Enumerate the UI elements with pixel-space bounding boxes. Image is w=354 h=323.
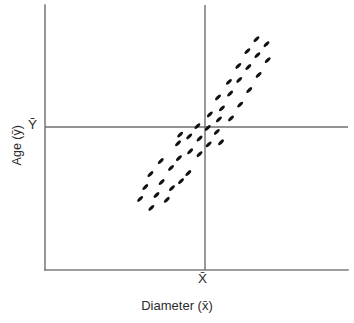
data-point xyxy=(245,63,252,70)
data-point xyxy=(163,196,170,203)
data-point xyxy=(153,191,160,198)
data-point xyxy=(157,157,164,164)
data-point xyxy=(148,204,155,211)
data-point xyxy=(176,131,183,138)
mean-lines-group xyxy=(45,5,348,270)
x-axis-label: Diameter (x̄) xyxy=(0,299,354,312)
data-point xyxy=(263,40,270,47)
data-point xyxy=(264,56,271,63)
y-axis-label: Age (ȳ) xyxy=(11,105,24,185)
data-point xyxy=(213,128,220,135)
data-point xyxy=(185,133,192,140)
data-point xyxy=(158,178,165,185)
data-point xyxy=(196,135,203,142)
data-point xyxy=(236,101,243,108)
data-point xyxy=(218,105,225,112)
data-point xyxy=(225,78,232,85)
data-point xyxy=(168,184,175,191)
data-point xyxy=(205,141,212,148)
data-point xyxy=(136,195,143,202)
data-point xyxy=(227,115,234,122)
y-mean-tick-label: Ȳ xyxy=(28,118,37,132)
data-point xyxy=(226,90,233,97)
data-point xyxy=(235,62,242,69)
data-point xyxy=(217,139,224,146)
data-point xyxy=(142,183,149,190)
data-point xyxy=(196,150,203,157)
data-point xyxy=(194,122,201,129)
data-point xyxy=(174,140,181,147)
data-point xyxy=(245,86,252,93)
data-point xyxy=(235,76,242,83)
data-point xyxy=(147,170,154,177)
x-mean-tick-label: X̄ xyxy=(198,272,207,286)
plot-canvas xyxy=(0,0,354,323)
data-point xyxy=(255,71,262,78)
data-point xyxy=(177,177,184,184)
data-point xyxy=(206,111,213,118)
data-point xyxy=(244,47,251,54)
data-point xyxy=(175,154,182,161)
data-point xyxy=(254,51,261,58)
data-point xyxy=(186,148,193,155)
data-point xyxy=(185,169,192,176)
axes-group xyxy=(45,5,348,270)
data-point xyxy=(253,35,260,42)
data-point-markers xyxy=(136,35,271,211)
data-point xyxy=(167,164,174,171)
data-point xyxy=(215,116,222,123)
data-point xyxy=(214,94,221,101)
scatter-plot-figure: Age (ȳ) Ȳ X̄ Diameter (x̄) xyxy=(0,0,354,323)
